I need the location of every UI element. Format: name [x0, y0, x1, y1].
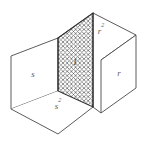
figure-container: r2 s s2 r	[0, 0, 148, 146]
box-diagram-svg: r2 s s2 r	[0, 0, 148, 146]
center-square-label: 1	[73, 57, 78, 67]
left-face-label: s	[31, 69, 35, 79]
right-face-label: r	[117, 68, 121, 78]
bottom-right-connector-edge	[93, 107, 101, 113]
center-hatched-square-group: 1	[58, 13, 93, 107]
